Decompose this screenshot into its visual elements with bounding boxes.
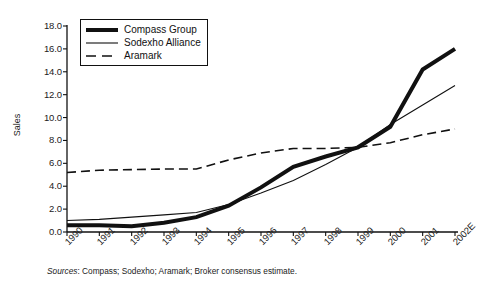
x-axis-tick-label: 2002E [451,221,477,247]
source-note-lead: Sources [47,266,77,276]
x-axis-tick-label: 1991 [95,225,117,247]
legend-item: Sodexho Alliance [85,36,203,49]
legend-label: Aramark [124,50,162,62]
legend-swatch-dashed [85,50,119,62]
x-axis-tick-label: 1992 [128,225,150,247]
legend-label: Sodexho Alliance [124,37,201,49]
x-axis-tick-label: 1999 [354,225,376,247]
source-note: Sources: Compass; Sodexho; Aramark; Brok… [47,266,297,276]
source-note-rest: : Compass; Sodexho; Aramark; Broker cons… [77,266,297,276]
x-axis-tick-label: 1996 [257,225,279,247]
legend-swatch-thin-solid [85,37,119,49]
legend-item: Aramark [85,49,203,62]
x-axis-tick-label: 2001 [419,225,441,247]
x-axis-tick-label: 2000 [386,225,408,247]
chart-legend: Compass GroupSodexho AllianceAramark [80,19,208,66]
legend-item: Compass Group [85,23,203,36]
x-axis-tick-label: 1994 [192,225,214,247]
x-axis-tick-label: 1993 [160,225,182,247]
x-axis-tick-label: 1990 [63,225,85,247]
x-axis-tick-label: 1995 [225,225,247,247]
x-axis-tick-label: 1998 [322,225,344,247]
legend-swatch-thick-solid [85,24,119,36]
x-axis-tick-label: 1997 [289,225,311,247]
legend-label: Compass Group [124,24,197,36]
